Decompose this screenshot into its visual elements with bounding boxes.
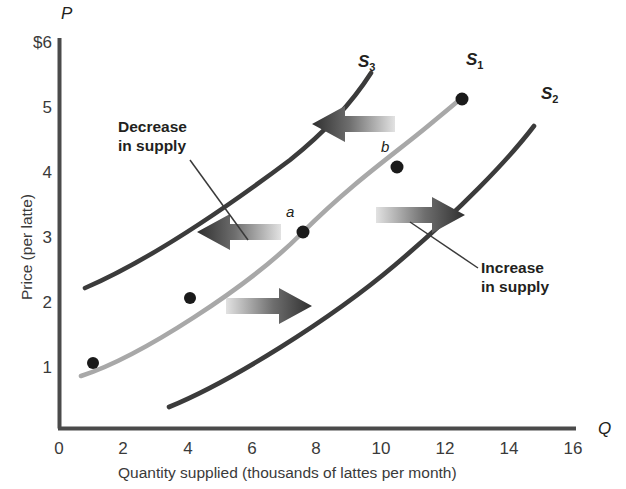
curve-s2 (169, 126, 534, 407)
x-tick-0: 0 (39, 440, 79, 457)
decrease-in-supply-callout: Decrease in supply (118, 117, 187, 156)
x-tick-2: 2 (103, 440, 143, 457)
x-axis-title: Quantity supplied (thousands of lattes p… (118, 464, 457, 482)
x-tick-6: 6 (232, 440, 272, 457)
y-tick-1: 1 (4, 359, 52, 376)
x-axis-symbol: Q (598, 419, 611, 439)
point-label-b: b (381, 138, 389, 155)
decrease-arrow-upper (312, 106, 395, 142)
curve-label-s3-subscript: 3 (369, 61, 375, 73)
increase-callout-line1: Increase (481, 258, 549, 277)
curve-label-s1-subscript: 1 (477, 59, 483, 71)
curve-label-s1: S1 (466, 50, 483, 71)
curve-label-s2-subscript: 2 (552, 93, 558, 105)
curve-label-s3-letter: S (358, 52, 369, 71)
marker-12-5 (456, 93, 469, 106)
y-tick-5: 5 (4, 99, 52, 116)
x-tick-12: 12 (425, 440, 465, 457)
point-label-a: a (286, 203, 294, 220)
y-tick-6: $6 (4, 34, 52, 51)
decrease-callout-line2: in supply (118, 136, 187, 155)
marker-1-1 (87, 357, 99, 369)
increase-arrow-upper (376, 197, 465, 233)
marker-b (391, 161, 404, 174)
supply-shift-chart: $6 5 4 3 2 1 0 2 4 6 8 10 12 14 16 P Q P… (0, 0, 626, 489)
x-tick-4: 4 (168, 440, 208, 457)
y-tick-4: 4 (4, 164, 52, 181)
increase-arrow-lower (226, 288, 312, 324)
curve-label-s2-letter: S (541, 84, 552, 103)
x-tick-16: 16 (553, 440, 593, 457)
axis-lines (58, 38, 576, 429)
y-axis-title: Price (per latte) (18, 194, 36, 300)
curve-label-s1-letter: S (466, 50, 477, 69)
shift-arrows (197, 106, 465, 324)
curve-s3 (85, 73, 371, 288)
x-tick-8: 8 (296, 440, 336, 457)
y-axis-symbol: P (61, 4, 72, 24)
increase-in-supply-callout: Increase in supply (481, 258, 549, 297)
increase-callout-line2: in supply (481, 277, 549, 296)
marker-a (297, 226, 310, 239)
decrease-callout-line1: Decrease (118, 117, 187, 136)
curve-label-s2: S2 (541, 84, 558, 105)
chart-canvas (0, 0, 626, 489)
x-tick-10: 10 (361, 440, 401, 457)
x-tick-14: 14 (489, 440, 529, 457)
curve-label-s3: S3 (358, 52, 375, 73)
marker-4-2 (184, 292, 196, 304)
